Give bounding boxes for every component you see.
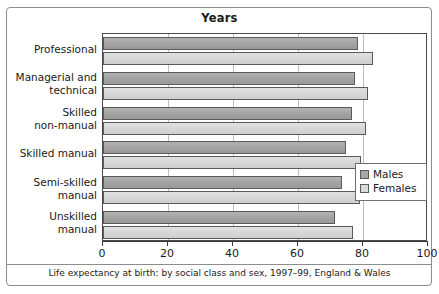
bar-females-3	[103, 156, 361, 169]
x-tick-label-100: 100	[407, 247, 439, 260]
legend-item-females: Females	[360, 182, 422, 195]
bar-males-4	[103, 176, 342, 189]
category-label-5: Unskilledmanual	[0, 210, 97, 235]
category-label-line: manual	[0, 223, 97, 236]
chart-legend: Males Females	[355, 163, 427, 201]
category-label-line: Skilled	[0, 106, 97, 119]
category-label-line: manual	[0, 189, 97, 202]
category-label-line: Skilled manual	[0, 147, 97, 160]
chart-title: Years	[0, 11, 439, 25]
bar-females-5	[103, 226, 353, 239]
category-label-line: Professional	[0, 43, 97, 56]
x-tick-80	[362, 241, 363, 246]
bar-males-3	[103, 141, 346, 154]
bar-males-1	[103, 72, 355, 85]
category-label-3: Skilled manual	[0, 147, 97, 160]
legend-item-males: Males	[360, 168, 422, 181]
x-axis-line	[102, 241, 427, 242]
bar-males-5	[103, 211, 335, 224]
bar-females-2	[103, 122, 366, 135]
x-tick-label-80: 80	[342, 247, 382, 260]
plot-area	[102, 33, 427, 241]
x-tick-label-60: 60	[277, 247, 317, 260]
category-label-4: Semi-skilledmanual	[0, 176, 97, 201]
category-label-line: Semi-skilled	[0, 176, 97, 189]
bar-females-4	[103, 191, 360, 204]
category-label-line: Managerial and	[0, 71, 97, 84]
x-tick-label-20: 20	[147, 247, 187, 260]
category-label-0: Professional	[0, 43, 97, 56]
males-swatch-icon	[360, 170, 369, 179]
x-tick-label-0: 0	[82, 247, 122, 260]
x-tick-0	[102, 241, 103, 246]
bar-females-1	[103, 87, 368, 100]
category-label-line: Unskilled	[0, 210, 97, 223]
category-label-1: Managerial andtechnical	[0, 71, 97, 96]
x-tick-60	[297, 241, 298, 246]
x-tick-100	[427, 241, 428, 246]
chart-figure: Years Males Females Life expectancy at b…	[0, 0, 439, 294]
bar-males-2	[103, 107, 352, 120]
category-label-2: Skillednon-manual	[0, 106, 97, 131]
x-tick-40	[232, 241, 233, 246]
x-tick-label-40: 40	[212, 247, 252, 260]
legend-label-males: Males	[373, 168, 403, 181]
bar-males-0	[103, 37, 358, 50]
chart-caption: Life expectancy at birth: by social clas…	[0, 268, 439, 278]
females-swatch-icon	[360, 184, 369, 193]
legend-label-females: Females	[373, 182, 416, 195]
bar-females-0	[103, 52, 373, 65]
caption-divider	[7, 264, 431, 265]
category-label-line: non-manual	[0, 119, 97, 132]
category-label-line: technical	[0, 84, 97, 97]
x-tick-20	[167, 241, 168, 246]
